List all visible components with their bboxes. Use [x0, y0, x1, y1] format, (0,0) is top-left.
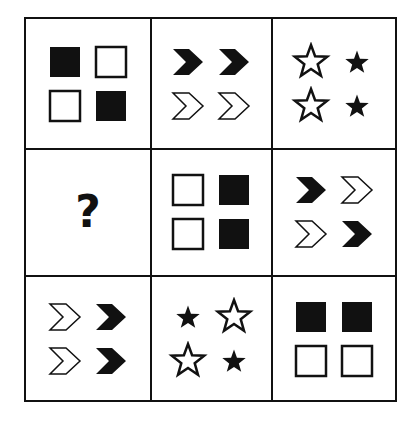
filled-square-icon: [48, 45, 82, 79]
outline-chevron-icon: [217, 89, 251, 123]
puzzle-cell-r2c3: [271, 148, 397, 275]
filled-chevron-icon: [171, 45, 205, 79]
outline-star-icon: [168, 341, 208, 381]
puzzle-cell-r1c1: [26, 19, 150, 148]
outline-star-icon: [291, 86, 331, 126]
outline-star-icon: [291, 42, 331, 82]
puzzle-cell-r2c2: [150, 148, 271, 275]
filled-square-icon: [340, 300, 374, 334]
puzzle-cell-r3c3: [271, 275, 397, 402]
filled-square-icon: [294, 300, 328, 334]
filled-star-icon: [217, 344, 251, 378]
outline-square-icon: [171, 173, 205, 207]
filled-chevron-icon: [294, 173, 328, 207]
puzzle-cell-r3c1: [26, 275, 150, 402]
filled-chevron-icon: [340, 217, 374, 251]
question-mark: ?: [75, 190, 101, 234]
outline-chevron-icon: [48, 344, 82, 378]
outline-chevron-icon: [294, 217, 328, 251]
filled-chevron-icon: [94, 344, 128, 378]
outline-chevron-icon: [48, 300, 82, 334]
filled-star-icon: [171, 300, 205, 334]
puzzle-cell-r1c3: [271, 19, 397, 148]
filled-chevron-icon: [217, 45, 251, 79]
outline-square-icon: [48, 89, 82, 123]
outline-star-icon: [214, 297, 254, 337]
filled-square-icon: [94, 89, 128, 123]
filled-square-icon: [217, 217, 251, 251]
outline-square-icon: [294, 344, 328, 378]
puzzle-cell-r1c2: [150, 19, 271, 148]
filled-star-icon: [340, 45, 374, 79]
outline-chevron-icon: [171, 89, 205, 123]
filled-chevron-icon: [94, 300, 128, 334]
filled-star-icon: [340, 89, 374, 123]
outline-chevron-icon: [340, 173, 374, 207]
puzzle-cell-r3c2: [150, 275, 271, 402]
outline-square-icon: [94, 45, 128, 79]
outline-square-icon: [171, 217, 205, 251]
filled-square-icon: [217, 173, 251, 207]
puzzle-cell-r2c1[interactable]: ?: [26, 148, 150, 275]
outline-square-icon: [340, 344, 374, 378]
